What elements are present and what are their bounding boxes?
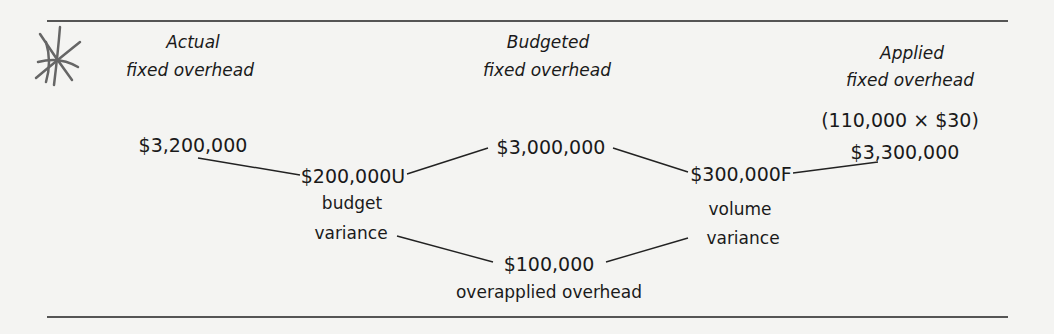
budgeted-amount: $3,000,000	[497, 138, 606, 157]
volume-variance-label-line1: volume	[709, 201, 772, 218]
actual-amount: $3,200,000	[139, 136, 248, 155]
actual-heading-line2: fixed overhead	[126, 62, 254, 79]
budgeted-heading-line1: Budgeted	[507, 34, 589, 51]
applied-heading-line1: Applied	[880, 45, 944, 62]
budget-variance-label-line2: variance	[314, 225, 387, 242]
budgeted-heading-line2: fixed overhead	[483, 62, 611, 79]
budget-variance-label-line1: budget	[322, 195, 382, 212]
budget-variance-amount: $200,000U	[301, 167, 406, 186]
overapplied-label: overapplied overhead	[456, 284, 642, 301]
applied-amount: $3,300,000	[851, 143, 960, 162]
applied-heading-line2: fixed overhead	[846, 72, 974, 89]
overapplied-amount: $100,000	[504, 255, 595, 274]
applied-formula: (110,000 × $30)	[821, 111, 979, 130]
volume-variance-label-line2: variance	[706, 230, 779, 247]
volume-variance-amount: $300,000F	[690, 165, 792, 184]
actual-heading-line1: Actual	[166, 34, 220, 51]
